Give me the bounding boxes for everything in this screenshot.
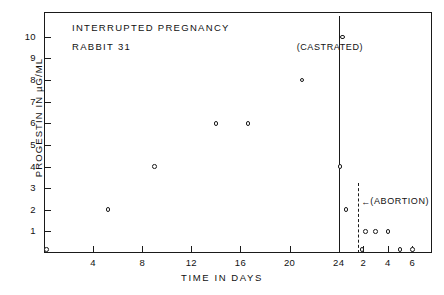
progestin-scatter-figure: PROGESTIN IN µG/ML TIME IN DAYS 10987654… bbox=[0, 0, 444, 295]
data-point bbox=[363, 229, 368, 234]
abortion-label: (ABORTION) bbox=[370, 196, 429, 206]
x-tick-label-5: 24 bbox=[327, 257, 351, 268]
data-point bbox=[340, 35, 345, 40]
y-tick-label-3: 3 bbox=[10, 182, 36, 193]
data-point bbox=[410, 247, 415, 252]
x-tick-label-2: 12 bbox=[179, 257, 203, 268]
x-tick-label-1: 8 bbox=[130, 257, 154, 268]
data-point bbox=[44, 247, 49, 252]
x-tick-label-3: 16 bbox=[228, 257, 252, 268]
x-tick-label-0: 4 bbox=[81, 257, 105, 268]
data-point bbox=[386, 229, 391, 234]
y-tick-label-9: 9 bbox=[10, 52, 36, 63]
y-tick-6 bbox=[44, 123, 51, 124]
x-tick-label-6: 2 bbox=[351, 257, 375, 268]
y-tick-7 bbox=[44, 102, 51, 103]
x-tick-label-7: 4 bbox=[376, 257, 400, 268]
abortion-event-line bbox=[358, 183, 359, 253]
y-tick-10 bbox=[44, 37, 51, 38]
y-tick-label-7: 7 bbox=[10, 96, 36, 107]
x-tick-4 bbox=[290, 246, 291, 253]
y-tick-label-1: 1 bbox=[10, 225, 36, 236]
y-tick-label-6: 6 bbox=[10, 117, 36, 128]
x-tick-2 bbox=[191, 246, 192, 253]
y-tick-label-2: 2 bbox=[10, 204, 36, 215]
chart-subtitle: RABBIT 31 bbox=[72, 41, 131, 52]
y-tick-4 bbox=[44, 167, 51, 168]
y-tick-5 bbox=[44, 145, 51, 146]
data-point bbox=[373, 229, 378, 234]
x-tick-label-4: 20 bbox=[278, 257, 302, 268]
data-point bbox=[106, 207, 111, 212]
x-tick-label-8: 6 bbox=[400, 257, 424, 268]
data-point bbox=[152, 164, 157, 169]
data-point bbox=[338, 164, 343, 169]
y-tick-label-4: 4 bbox=[10, 161, 36, 172]
data-point bbox=[246, 121, 251, 126]
chart-title: INTERRUPTED PREGNANCY bbox=[72, 22, 230, 33]
y-tick-3 bbox=[44, 188, 51, 189]
x-tick-0 bbox=[93, 246, 94, 253]
x-tick-1 bbox=[142, 246, 143, 253]
x-tick-3 bbox=[240, 246, 241, 253]
data-point bbox=[214, 121, 219, 126]
y-tick-1 bbox=[44, 231, 51, 232]
y-tick-2 bbox=[44, 210, 51, 211]
abortion-arrow-icon: ← bbox=[361, 198, 370, 207]
y-tick-label-8: 8 bbox=[10, 74, 36, 85]
y-tick-8 bbox=[44, 80, 51, 81]
y-tick-9 bbox=[44, 58, 51, 59]
castrated-label: (CASTRATED) bbox=[297, 42, 363, 52]
x-axis-title: TIME IN DAYS bbox=[0, 272, 444, 283]
y-tick-label-10: 10 bbox=[10, 31, 36, 42]
x-tick-7 bbox=[388, 246, 389, 253]
y-tick-label-5: 5 bbox=[10, 139, 36, 150]
